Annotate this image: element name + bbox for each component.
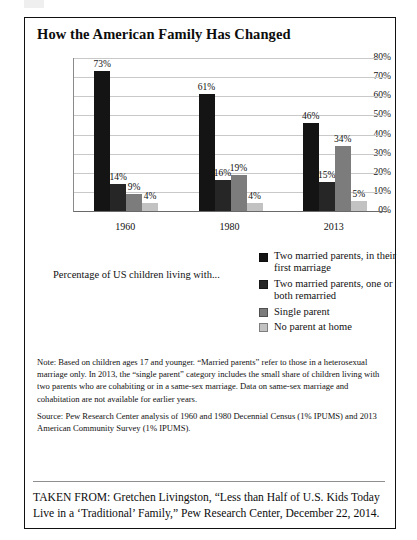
bar	[142, 203, 158, 211]
bar-group: 73%14%9%4%	[94, 58, 158, 211]
legend-swatch-icon	[259, 308, 268, 317]
bar-value-label: 5%	[345, 190, 373, 200]
bar-group: 61%16%19%4%	[199, 58, 263, 211]
legend-caption: Percentage of US children living with...	[53, 268, 249, 281]
bar	[215, 180, 231, 211]
bar	[303, 123, 319, 211]
scan-artifact	[24, 0, 44, 8]
legend-item-label: Two married parents, in their first marr…	[274, 250, 399, 275]
bar-group: 46%15%34%5%	[303, 58, 367, 211]
legend-item: Two married parents, in their first marr…	[259, 250, 399, 275]
bar	[319, 182, 335, 211]
note-text: Note: Based on children ages 17 and youn…	[37, 356, 385, 405]
bar-value-label: 46%	[297, 112, 325, 122]
bar-value-label: 4%	[241, 192, 269, 202]
figure-container: How the American Family Has Changed 80%7…	[24, 17, 396, 529]
legend-item-label: Two married parents, one or both remarri…	[274, 278, 399, 303]
divider	[33, 481, 385, 482]
legend-swatch-icon	[259, 323, 268, 332]
legend-item: Two married parents, one or both remarri…	[259, 278, 399, 303]
bar-value-label: 19%	[225, 164, 253, 174]
x-axis-tick-label: 1960	[97, 221, 153, 232]
legend-item: Single parent	[259, 306, 399, 318]
source-text: Source: Pew Research Center analysis of …	[37, 410, 385, 434]
legend-item: No parent at home	[259, 321, 399, 333]
legend-item-label: Single parent	[274, 306, 330, 318]
page-title: How the American Family Has Changed	[37, 26, 377, 43]
legend-swatch-icon	[259, 253, 268, 262]
bar	[94, 71, 110, 211]
bar-chart: 80%70%60%50%40%30%20%10%0% 73%14%9%4%61%…	[31, 54, 391, 234]
bar	[247, 203, 263, 211]
chart-legend: Percentage of US children living with...…	[37, 250, 385, 332]
bar-value-label: 34%	[329, 135, 357, 145]
legend-item-list: Two married parents, in their first marr…	[259, 250, 399, 336]
bar-value-label: 61%	[193, 83, 221, 93]
legend-item-label: No parent at home	[274, 321, 352, 333]
bar	[335, 146, 351, 211]
taken-from-citation: TAKEN FROM: Gretchen Livingston, “Less t…	[33, 490, 389, 523]
bar	[199, 94, 215, 211]
x-axis-tick-label: 2013	[306, 221, 362, 232]
legend-swatch-icon	[259, 280, 268, 289]
x-axis-tick-label: 1980	[202, 221, 258, 232]
bar-value-label: 73%	[88, 60, 116, 70]
bar	[351, 201, 367, 211]
bar-value-label: 4%	[136, 192, 164, 202]
bars-layer: 73%14%9%4%61%16%19%4%46%15%34%5%	[74, 58, 387, 211]
plot-grid: 73%14%9%4%61%16%19%4%46%15%34%5%	[73, 58, 387, 212]
